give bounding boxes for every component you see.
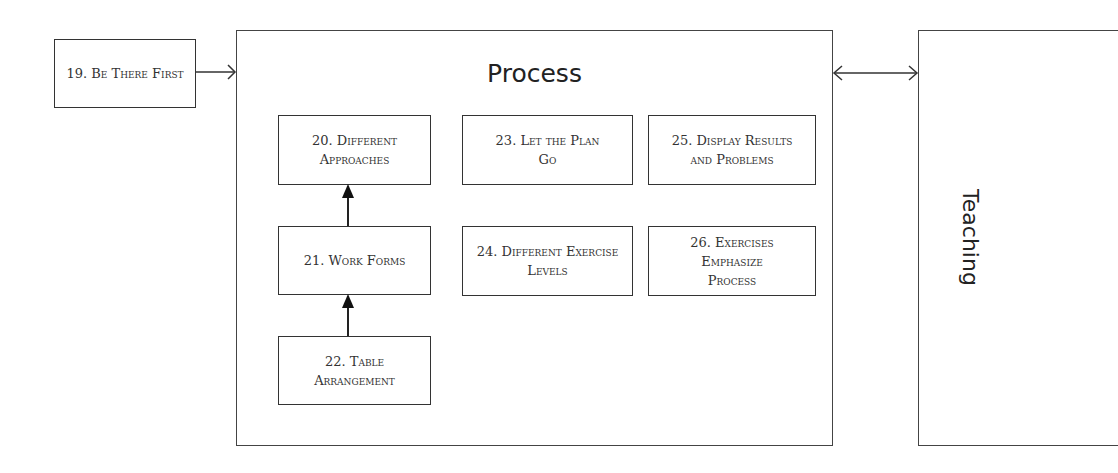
node-label: 22. Table Arrangement	[305, 352, 405, 390]
node-21-work-forms: 21. Work Forms	[278, 226, 431, 295]
node-label: 23. Let the Plan Go	[493, 131, 602, 169]
node-19-be-there-first: 19. Be There First	[54, 39, 196, 108]
node-label: 26. Exercises Emphasize Process	[677, 233, 787, 290]
node-label: 24. Different Exercise Levels	[469, 242, 626, 280]
node-26-exercises-emphasize-process: 26. Exercises Emphasize Process	[648, 226, 816, 296]
node-label: 19. Be There First	[66, 64, 183, 83]
teaching-container	[918, 30, 1118, 446]
arrow-19-to-process	[196, 65, 235, 79]
node-label: 20. Different Approaches	[279, 131, 430, 169]
node-22-table-arrangement: 22. Table Arrangement	[278, 336, 431, 405]
node-25-display-results-and-problems: 25. Display Results and Problems	[648, 115, 816, 185]
teaching-label: Teaching	[958, 178, 983, 298]
node-20-different-approaches: 20. Different Approaches	[278, 115, 431, 185]
node-label: 25. Display Results and Problems	[671, 131, 793, 169]
node-23-let-the-plan-go: 23. Let the Plan Go	[462, 115, 633, 185]
node-label: 21. Work Forms	[304, 251, 406, 270]
process-title: Process	[237, 59, 832, 88]
arrow-process-teaching-bidirectional	[834, 66, 917, 80]
node-24-different-exercise-levels: 24. Different Exercise Levels	[462, 226, 633, 296]
